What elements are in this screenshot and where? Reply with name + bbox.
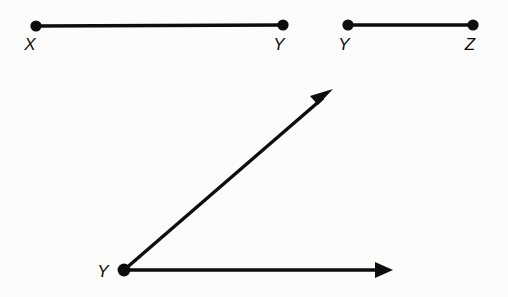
ray-diagonal-line: [124, 98, 323, 270]
endpoint-dot-x: [30, 20, 41, 31]
segment-xy: X Y: [23, 19, 288, 54]
ray-diagonal-up-right: [124, 89, 333, 270]
ray-horizontal-arrowhead-icon: [375, 262, 393, 278]
ray-diagonal-arrowhead-icon: [310, 89, 333, 105]
endpoint-dot-y-first: [277, 19, 288, 30]
label-y-second: Y: [338, 35, 351, 54]
endpoint-dot-y-second: [342, 19, 353, 30]
angle-at-vertex-y: Y: [97, 89, 393, 281]
segment-yz: Y Z: [338, 19, 478, 54]
segment-xy-line: [36, 25, 283, 26]
geometry-figure: X Y Y Z Y: [0, 0, 508, 297]
vertex-dot-y: [118, 264, 131, 277]
ray-horizontal-right: [124, 262, 393, 278]
label-y-vertex: Y: [97, 262, 110, 281]
label-z: Z: [464, 35, 476, 54]
endpoint-dot-z: [467, 19, 478, 30]
diagram-canvas: X Y Y Z Y: [0, 0, 508, 297]
label-x: X: [23, 35, 36, 54]
label-y-first: Y: [273, 35, 286, 54]
